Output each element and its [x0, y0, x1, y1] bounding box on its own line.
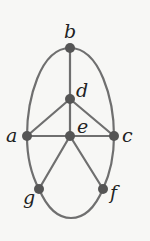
- edge-d-a: [27, 99, 70, 136]
- graph-svg: a b c d e f g: [0, 0, 150, 241]
- edge-b-a: [27, 48, 70, 136]
- edge-a-g: [27, 136, 39, 189]
- node-g: [34, 184, 44, 194]
- node-c: [109, 131, 119, 141]
- label-a: a: [6, 124, 17, 146]
- edge-e-f: [70, 136, 103, 189]
- graph-diagram: a b c d e f g: [0, 0, 150, 241]
- label-d: d: [76, 79, 88, 101]
- node-e: [65, 131, 75, 141]
- label-e: e: [77, 115, 88, 137]
- edge-e-g: [39, 136, 70, 189]
- label-c: c: [122, 124, 133, 146]
- node-b: [65, 43, 75, 53]
- node-f: [98, 184, 108, 194]
- label-g: g: [23, 186, 35, 208]
- node-a: [22, 131, 32, 141]
- edge-g-f: [39, 189, 103, 218]
- label-f: f: [108, 181, 120, 203]
- node-d: [65, 94, 75, 104]
- label-b: b: [64, 20, 76, 42]
